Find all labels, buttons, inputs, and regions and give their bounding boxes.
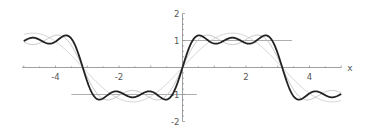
x-tick-label: -4	[51, 72, 59, 82]
y-tick-label: 1	[174, 36, 179, 46]
y-tick-label: -2	[171, 117, 179, 127]
x-tick-label: 4	[307, 72, 312, 82]
y-tick-label: 2	[174, 9, 179, 19]
x-axis-label: x	[347, 63, 353, 73]
chart-plot-area: -4-224 x -2-112	[0, 0, 370, 134]
x-tick-label: -2	[115, 72, 123, 82]
x-tick-label: 2	[243, 72, 248, 82]
x-axis: -4-224 x	[22, 63, 353, 82]
